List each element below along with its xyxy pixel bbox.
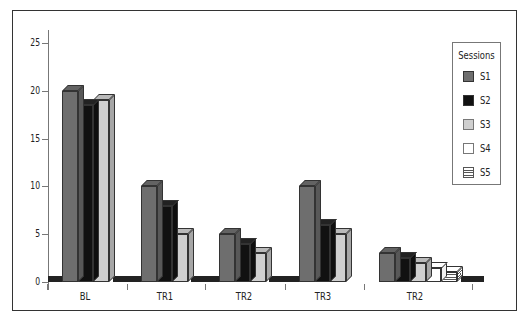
bar-front-face	[219, 234, 235, 282]
legend-label: S3	[480, 118, 491, 131]
floor-segment	[48, 276, 62, 282]
legend-swatch-s2	[463, 95, 474, 106]
bar-side-face	[109, 94, 115, 282]
x-tick-label: TR2	[390, 290, 441, 303]
legend-label: S4	[480, 142, 491, 155]
bar-side-face	[93, 99, 99, 282]
x-tick-label: TR2	[219, 290, 270, 303]
bar-side-face	[78, 85, 84, 282]
bar-side-face	[250, 238, 256, 282]
x-tick	[472, 284, 473, 290]
bar-side-face	[395, 247, 401, 282]
x-tick	[47, 284, 48, 290]
legend: Sessions S1 S2 S3 S4 S5	[452, 42, 501, 185]
bar-side-face	[266, 247, 272, 282]
x-tick-label: BL	[60, 290, 111, 303]
y-tick-label: 25	[25, 38, 40, 48]
bar-s1-tr2	[379, 247, 401, 282]
y-tick	[42, 234, 48, 235]
legend-label: S2	[480, 94, 491, 107]
y-tick-label: 5	[25, 229, 40, 239]
bar-side-face	[157, 180, 163, 282]
x-tick	[127, 284, 128, 290]
x-tick-label: TR3	[298, 290, 349, 303]
y-tick	[42, 139, 48, 140]
legend-swatch-s5	[463, 167, 474, 178]
bar-side-face	[315, 180, 321, 282]
legend-title: Sessions	[457, 49, 497, 62]
bar-s1-bl	[62, 85, 84, 282]
x-tick	[364, 284, 365, 290]
bar-front-face	[62, 91, 78, 282]
floor-segment	[113, 276, 141, 282]
y-tick	[42, 282, 48, 283]
bar-front-face	[379, 253, 395, 282]
y-tick-label: 0	[25, 277, 40, 287]
legend-swatch-s3	[463, 119, 474, 130]
y-tick	[42, 43, 48, 44]
y-tick-label: 10	[25, 181, 40, 191]
y-tick	[42, 91, 48, 92]
legend-label: S5	[480, 166, 491, 179]
bar-side-face	[330, 219, 336, 282]
y-axis	[48, 30, 49, 290]
bar-side-face	[235, 228, 241, 282]
x-tick-label: TR1	[140, 290, 191, 303]
bar-side-face	[188, 228, 194, 282]
x-tick	[285, 284, 286, 290]
y-tick-label: 20	[25, 86, 40, 96]
bar-s1-tr3	[299, 180, 321, 282]
bar-s1-tr1	[141, 180, 163, 282]
legend-swatch-s1	[463, 71, 474, 82]
x-tick	[205, 284, 206, 290]
bar-side-face	[346, 228, 352, 282]
y-tick	[42, 186, 48, 187]
floor-segment	[461, 276, 484, 282]
bar-side-face	[172, 200, 178, 282]
legend-label: S1	[480, 70, 491, 83]
y-tick-label: 15	[25, 134, 40, 144]
bar-front-face	[141, 186, 157, 282]
floor-segment	[269, 276, 299, 282]
floor-segment	[191, 276, 219, 282]
legend-swatch-s4	[463, 143, 474, 154]
bar-s1-tr2	[219, 228, 241, 282]
bar-front-face	[299, 186, 315, 282]
